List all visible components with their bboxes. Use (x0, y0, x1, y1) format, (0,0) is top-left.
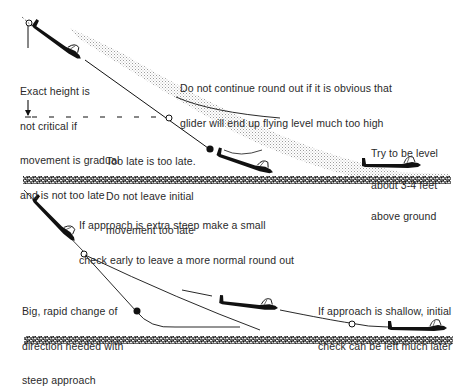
label-line: movement is gradual (20, 155, 119, 167)
label-line: about 3-4 feet (371, 180, 438, 191)
shallow-glider-icon (219, 294, 279, 312)
filled-circle-marker-bottom (134, 308, 141, 315)
label-big-rapid: Big, rapid change of direction needed wi… (22, 283, 123, 390)
shallow-path-lead (182, 290, 212, 296)
label-line: Big, rapid change of (22, 306, 123, 318)
label-line: glider will end up flying level much too… (180, 118, 392, 130)
label-line: If approach is extra steep make a small (79, 220, 294, 232)
label-extra-steep: If approach is extra steep make a small … (79, 197, 294, 289)
label-line: If approach is shallow, initial (318, 306, 452, 318)
open-circle-marker (166, 115, 172, 121)
label-line: Too late is too late. (106, 156, 196, 168)
label-shallow: If approach is shallow, initial check ca… (318, 283, 452, 375)
label-line: Try to be level (371, 148, 438, 159)
label-line: not critical if (20, 121, 119, 133)
label-line: above ground (371, 211, 438, 222)
label-line: check early to leave a more normal round… (79, 255, 294, 267)
label-line: Do not continue round out if it is obvio… (180, 83, 392, 95)
descending-glider-icon (31, 18, 86, 61)
label-line: Exact height is (20, 86, 119, 98)
label-line: steep approach (22, 375, 123, 387)
label-line: direction needed with (22, 341, 123, 353)
label-do-not-continue: Do not continue round out if it is obvio… (180, 60, 392, 152)
label-line: check can be left much later (318, 341, 452, 353)
label-try-level: Try to be level about 3-4 feet above gro… (371, 127, 438, 243)
